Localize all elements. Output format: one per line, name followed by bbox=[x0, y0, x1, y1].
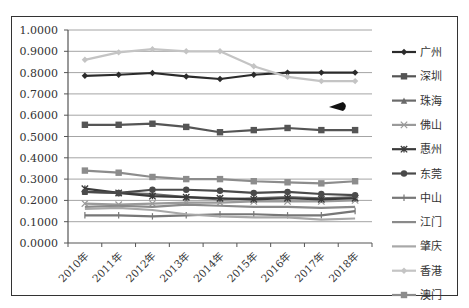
x-tick-label: 2016年 bbox=[259, 250, 293, 284]
y-tick-label: 0.2000 bbox=[20, 194, 59, 207]
legend-label: 珠海 bbox=[420, 94, 442, 108]
y-tick-label: 0.0000 bbox=[20, 237, 59, 250]
legend-item: 惠州 bbox=[392, 142, 442, 156]
y-tick-label: 1.0000 bbox=[20, 24, 59, 37]
x-tick-label: 2015年 bbox=[225, 250, 259, 284]
legend-label: 广州 bbox=[420, 46, 442, 59]
legend-item: 肇庆 bbox=[392, 239, 442, 253]
x-tick-label: 2012年 bbox=[123, 250, 157, 284]
line-chart: 0.00000.10000.20000.30000.40000.50000.60… bbox=[0, 0, 469, 308]
legend-item: 佛山 bbox=[392, 119, 442, 132]
legend: 广州深圳珠海佛山惠州东莞中山江门肇庆香港澳门 bbox=[392, 46, 442, 302]
legend-label: 肇庆 bbox=[420, 239, 442, 253]
arrow-icon bbox=[329, 102, 346, 111]
y-tick-label: 0.9000 bbox=[20, 45, 59, 58]
legend-item: 广州 bbox=[392, 46, 442, 59]
y-tick-label: 0.3000 bbox=[20, 173, 59, 186]
y-tick-label: 0.7000 bbox=[20, 88, 59, 101]
legend-label: 香港 bbox=[420, 265, 442, 278]
y-tick-label: 0.6000 bbox=[20, 109, 59, 122]
y-tick-label: 0.8000 bbox=[20, 67, 59, 80]
y-tick-label: 0.5000 bbox=[20, 131, 59, 144]
legend-label: 佛山 bbox=[420, 119, 442, 132]
legend-item: 深圳 bbox=[392, 70, 442, 83]
legend-label: 澳门 bbox=[420, 288, 442, 302]
x-axis: 2010年2011年2012年2013年2014年2015年2016年2017年… bbox=[56, 243, 372, 284]
x-tick-label: 2017年 bbox=[292, 250, 326, 284]
series-6 bbox=[85, 208, 355, 220]
legend-item: 东莞 bbox=[392, 168, 442, 181]
legend-label: 深圳 bbox=[420, 70, 442, 83]
x-tick-label: 2014年 bbox=[191, 250, 225, 284]
legend-item: 中山 bbox=[392, 192, 442, 205]
legend-item: 澳门 bbox=[392, 288, 442, 302]
legend-item: 香港 bbox=[392, 265, 442, 278]
x-tick-label: 2018年 bbox=[326, 250, 360, 284]
legend-label: 东莞 bbox=[420, 168, 442, 181]
x-tick-label: 2010年 bbox=[56, 250, 90, 284]
series-1 bbox=[82, 121, 359, 136]
series-10 bbox=[82, 167, 359, 186]
legend-label: 惠州 bbox=[420, 142, 442, 156]
x-tick-label: 2013年 bbox=[157, 250, 191, 284]
legend-item: 江门 bbox=[392, 215, 442, 229]
y-tick-label: 0.4000 bbox=[20, 152, 59, 165]
x-tick-label: 2011年 bbox=[90, 250, 124, 284]
legend-label: 江门 bbox=[420, 215, 442, 229]
legend-item: 珠海 bbox=[392, 94, 442, 108]
y-tick-label: 0.1000 bbox=[20, 216, 59, 229]
legend-label: 中山 bbox=[420, 192, 442, 205]
